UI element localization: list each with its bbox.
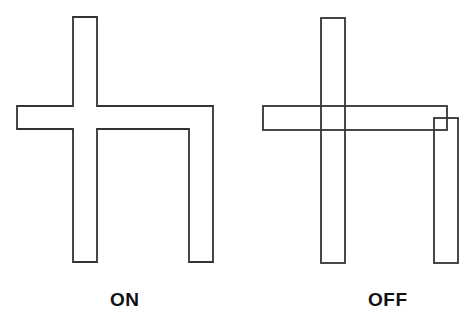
off-vertical-bar	[321, 18, 345, 263]
on-shape	[17, 17, 213, 262]
off-right-leg	[434, 118, 458, 263]
off-label: OFF	[368, 289, 408, 311]
merged-outline	[17, 17, 213, 262]
diagram-canvas	[0, 0, 472, 328]
on-label: ON	[110, 289, 140, 311]
off-shape	[263, 18, 458, 263]
off-horizontal-bar	[263, 106, 447, 130]
